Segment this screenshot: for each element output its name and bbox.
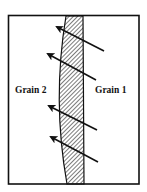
label-grain-1: Grain 1 [95, 85, 127, 95]
label-grain-2: Grain 2 [15, 85, 47, 95]
grain-boundary-diagram: Grain 2 Grain 1 [0, 0, 147, 192]
boundary-region [59, 16, 84, 184]
